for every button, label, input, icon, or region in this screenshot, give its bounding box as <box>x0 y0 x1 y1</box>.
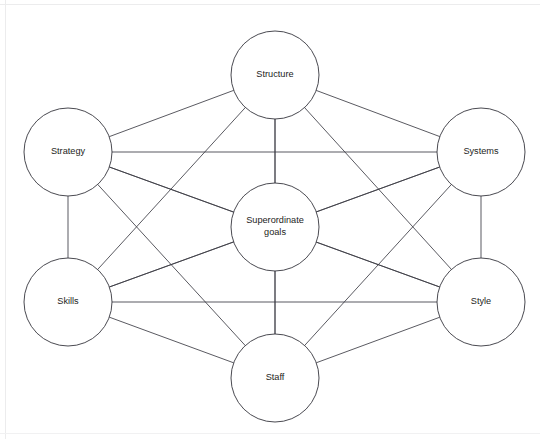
node-circle-structure[interactable] <box>231 31 319 119</box>
edge-superordinate-skills <box>109 242 233 287</box>
diagram-canvas: StructureStrategySystemsSuperordinategoa… <box>0 0 540 439</box>
edge-style-staff <box>316 317 439 363</box>
node-circle-staff[interactable] <box>231 334 319 422</box>
edge-structure-strategy <box>109 90 234 136</box>
edge-superordinate-style <box>316 242 439 287</box>
node-circle-strategy[interactable] <box>24 108 112 196</box>
seven-s-graph: StructureStrategySystemsSuperordinategoa… <box>0 0 540 439</box>
node-structure[interactable]: Structure <box>231 31 319 119</box>
node-strategy[interactable]: Strategy <box>24 108 112 196</box>
edge-skills-staff <box>109 317 233 363</box>
node-circle-systems[interactable] <box>437 108 525 196</box>
node-circle-skills[interactable] <box>24 258 112 346</box>
node-superordinate[interactable]: Superordinategoals <box>231 183 319 271</box>
node-circle-style[interactable] <box>437 258 525 346</box>
edge-structure-style <box>305 108 452 270</box>
node-systems[interactable]: Systems <box>437 108 525 196</box>
node-staff[interactable]: Staff <box>231 334 319 422</box>
node-skills[interactable]: Skills <box>24 258 112 346</box>
node-style[interactable]: Style <box>437 258 525 346</box>
node-layer: StructureStrategySystemsSuperordinategoa… <box>24 31 525 422</box>
node-circle-superordinate[interactable] <box>231 183 319 271</box>
edge-structure-systems <box>316 90 440 136</box>
